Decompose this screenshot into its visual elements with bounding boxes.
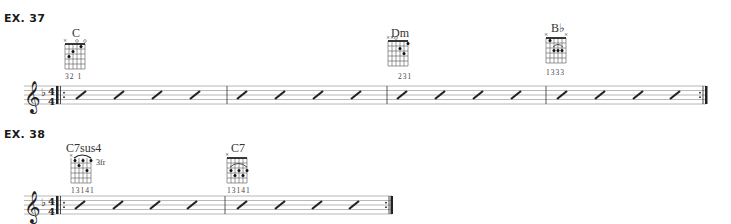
notation-graphics: × × × × × × [0, 0, 731, 224]
chord-diagram-c7: × [225, 151, 249, 183]
svg-text:×: × [63, 37, 67, 43]
treble-clef-icon: 𝄞 [24, 190, 41, 224]
svg-text:4: 4 [48, 206, 55, 217]
chord-diagram-bb: × × [544, 31, 568, 63]
chord-diagram-c: × [63, 37, 87, 69]
svg-text:×: × [390, 34, 394, 40]
treble-clef-icon: 𝄞 [24, 80, 41, 114]
staff-ex37: 𝄞 ♭ 4 4 [24, 80, 708, 114]
flat-icon: ♭ [41, 196, 46, 209]
svg-text:×: × [225, 151, 229, 157]
staff-ex38: 𝄞 ♭ 4 4 [24, 190, 393, 224]
svg-text:×: × [69, 152, 73, 158]
flat-icon: ♭ [41, 86, 46, 99]
svg-text:×: × [544, 31, 548, 37]
svg-text:×: × [564, 31, 568, 37]
svg-text:4: 4 [48, 96, 55, 107]
chord-diagram-c7sus4: × [69, 152, 93, 183]
chord-diagram-dm: × × [386, 34, 410, 66]
